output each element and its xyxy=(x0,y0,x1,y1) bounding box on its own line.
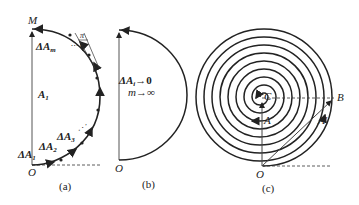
label-O-a: O xyxy=(28,166,36,178)
label-dAm: ΔAm xyxy=(35,40,56,54)
angle-numerator: π xyxy=(80,31,85,40)
label-A: A xyxy=(263,114,271,126)
label-O-c: O xyxy=(256,168,264,180)
tangent-line-1 xyxy=(75,33,95,68)
panel-a: ⋯ ⋰ M ΔAm π m A1 ΔA3 ΔA2 ΔA1 O (a) xyxy=(17,14,102,193)
svg-text:⋯: ⋯ xyxy=(70,41,78,50)
caption-a: (a) xyxy=(59,180,72,193)
label-A-prime: A' xyxy=(317,114,328,126)
vector-OB xyxy=(262,101,331,166)
panel-b: ΔAi→0 m→∞ O (b) xyxy=(115,30,187,191)
label-dA3: ΔA3 xyxy=(56,130,75,144)
caption-c: (c) xyxy=(262,182,275,195)
diagram-canvas: ⋯ ⋰ M ΔAm π m A1 ΔA3 ΔA2 ΔA1 O (a) ΔAi→0… xyxy=(0,0,359,205)
caption-b: (b) xyxy=(142,178,155,191)
angle-denominator: m xyxy=(80,41,86,50)
limit-m: m→∞ xyxy=(128,86,155,98)
label-C: C xyxy=(264,90,272,102)
label-dA2: ΔA2 xyxy=(38,140,57,154)
label-dA1: ΔA1 xyxy=(17,148,36,162)
label-A1: A1 xyxy=(37,88,49,102)
label-M: M xyxy=(27,14,38,26)
svg-text:⋰: ⋰ xyxy=(78,123,87,132)
label-O-b: O xyxy=(115,162,123,174)
panel-c: C A A' B O (c) xyxy=(196,29,344,195)
label-B: B xyxy=(337,91,344,103)
